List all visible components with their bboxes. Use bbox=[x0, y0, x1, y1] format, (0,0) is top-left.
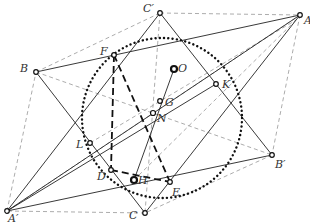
label-n: N bbox=[156, 112, 167, 125]
geometry-diagram: A B C A′ B′ C′ D E F K L O G N H bbox=[0, 0, 310, 222]
point-e bbox=[168, 180, 173, 185]
point-d bbox=[109, 168, 114, 173]
point-h bbox=[131, 177, 137, 183]
label-k: K bbox=[221, 78, 231, 91]
label-a-prime: A′ bbox=[7, 212, 19, 222]
label-f: F bbox=[99, 45, 108, 58]
point-g bbox=[158, 99, 163, 104]
label-c: C bbox=[129, 209, 138, 222]
label-e: E bbox=[171, 186, 180, 199]
point-a bbox=[298, 13, 303, 18]
label-a: A bbox=[303, 14, 310, 27]
label-g: G bbox=[165, 96, 174, 109]
points bbox=[5, 11, 303, 216]
label-o: O bbox=[178, 62, 187, 75]
point-o bbox=[171, 66, 177, 72]
point-b bbox=[34, 70, 39, 75]
point-b-prime bbox=[270, 153, 275, 158]
label-c-prime: C′ bbox=[143, 2, 154, 15]
label-b: B bbox=[19, 62, 28, 75]
label-d: D bbox=[96, 170, 106, 183]
label-h: H bbox=[137, 174, 148, 187]
label-l: L bbox=[75, 138, 83, 151]
point-l bbox=[88, 141, 93, 146]
point-f bbox=[112, 53, 117, 58]
point-c-prime bbox=[158, 11, 163, 16]
point-k bbox=[214, 82, 219, 87]
point-n bbox=[151, 111, 156, 116]
label-b-prime: B′ bbox=[274, 158, 286, 171]
point-c bbox=[143, 211, 148, 216]
